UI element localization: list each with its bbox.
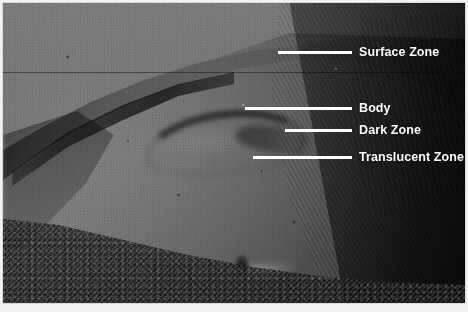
leader-line-surface-zone [278,51,352,54]
leader-line-translucent-zone [253,156,352,159]
figure-root: Surface Zone Body Dark Zone Translucent … [0,0,468,312]
callout-surface-zone: Surface Zone [278,44,439,60]
label-surface-zone: Surface Zone [359,44,439,60]
label-dark-zone: Dark Zone [359,122,421,138]
callout-dark-zone: Dark Zone [285,122,421,138]
label-body: Body [359,100,391,116]
callout-body: Body [245,100,391,116]
annotation-overlay: Surface Zone Body Dark Zone Translucent … [0,0,468,312]
callout-translucent-zone: Translucent Zone [253,149,464,165]
label-translucent-zone: Translucent Zone [359,149,464,165]
leader-line-dark-zone [285,129,352,132]
leader-line-body [245,107,352,110]
